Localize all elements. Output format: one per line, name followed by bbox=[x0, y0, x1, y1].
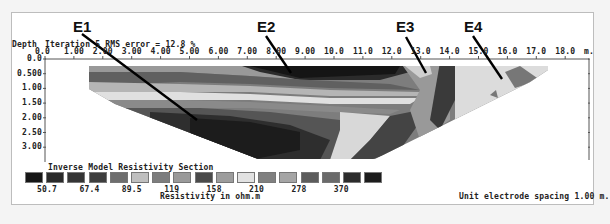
colorbar-swatch bbox=[67, 172, 85, 183]
colorbar-swatch bbox=[173, 172, 191, 183]
colorbar-swatch bbox=[195, 172, 213, 183]
colorbar-swatch bbox=[237, 172, 255, 183]
colorbar-swatch bbox=[46, 172, 64, 183]
colorbar-swatch bbox=[343, 172, 361, 183]
colorbar-swatch bbox=[110, 172, 128, 183]
annotation-e1: E1 bbox=[73, 19, 91, 34]
colorbar-swatch bbox=[279, 172, 297, 183]
x-tick-label: 16.0 bbox=[497, 48, 517, 56]
x-tick-label: 18.0 bbox=[555, 48, 575, 56]
colorbar-swatch bbox=[131, 172, 149, 183]
x-tick-label: 13.0 bbox=[411, 48, 431, 56]
x-tick-label: 7.00 bbox=[237, 48, 257, 56]
colorbar-swatch bbox=[89, 172, 107, 183]
x-tick-label: 5.00 bbox=[180, 48, 200, 56]
x-tick-label: 4.00 bbox=[151, 48, 171, 56]
colorbar-unit-label: Resistivity in ohm.m bbox=[160, 193, 260, 201]
x-unit-label: m. bbox=[584, 48, 594, 56]
y-tick-label: 3.00 bbox=[22, 143, 42, 151]
electrode-spacing-note: Unit electrode spacing 1.00 m. bbox=[459, 193, 610, 201]
x-tick-label: 15.0 bbox=[469, 48, 489, 56]
y-tick-label: 1.50 bbox=[22, 99, 42, 107]
x-tick-label: 14.0 bbox=[440, 48, 460, 56]
section-title: Inverse Model Resistivity Section bbox=[48, 164, 214, 172]
colorbar-swatch bbox=[322, 172, 340, 183]
x-tick-label: 17.0 bbox=[526, 48, 546, 56]
x-tick-label: 12.0 bbox=[382, 48, 402, 56]
colorbar-swatch bbox=[152, 172, 170, 183]
y-tick-label: 1.00 bbox=[22, 84, 42, 92]
colorbar-swatch bbox=[301, 172, 319, 183]
x-tick-label: 9.00 bbox=[295, 48, 315, 56]
x-tick-label: 2.00 bbox=[93, 48, 113, 56]
colorbar-tick-label: 67.4 bbox=[79, 186, 99, 194]
colorbar-swatch bbox=[25, 172, 43, 183]
y-tick-label: 0.500 bbox=[17, 70, 42, 78]
colorbar-tick-label: 278 bbox=[291, 186, 306, 194]
colorbar-tick-label: 50.7 bbox=[37, 186, 57, 194]
x-tick-label: 11.0 bbox=[353, 48, 373, 56]
x-tick-label: 8.00 bbox=[266, 48, 286, 56]
colorbar-swatch bbox=[364, 172, 382, 183]
x-tick-label: 1.00 bbox=[64, 48, 84, 56]
annotation-e2: E2 bbox=[257, 19, 275, 34]
resistivity-contours bbox=[85, 62, 560, 162]
annotation-e3: E3 bbox=[396, 19, 414, 34]
colorbar-swatch bbox=[216, 172, 234, 183]
colorbar-swatch bbox=[258, 172, 276, 183]
annotation-e4: E4 bbox=[464, 19, 482, 34]
depth-axis-title: Depth bbox=[12, 41, 37, 49]
x-tick-label: 6.00 bbox=[208, 48, 228, 56]
x-tick-label: 10.0 bbox=[324, 48, 344, 56]
y-tick-label: 2.50 bbox=[22, 129, 42, 137]
y-tick-label: 2.00 bbox=[22, 114, 42, 122]
colorbar-tick-label: 89.5 bbox=[122, 186, 142, 194]
colorbar-tick-label: 370 bbox=[334, 186, 349, 194]
y-tick-label: 0.0 bbox=[27, 55, 42, 63]
x-tick-label: 3.00 bbox=[122, 48, 142, 56]
